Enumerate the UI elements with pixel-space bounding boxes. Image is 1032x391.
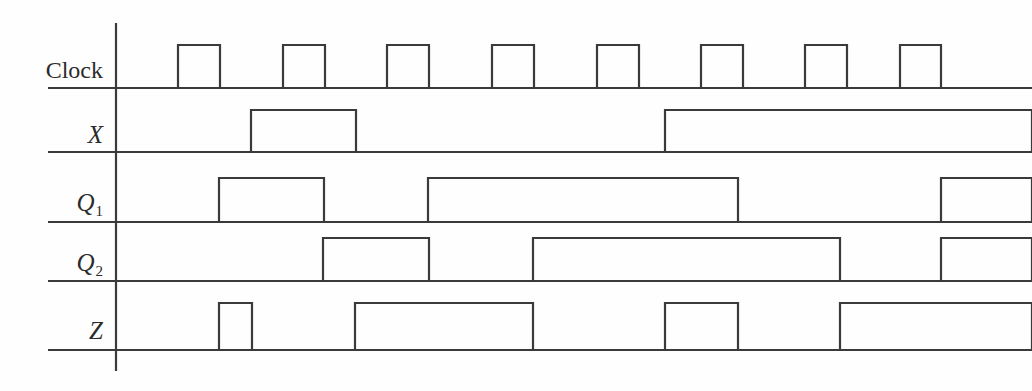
- waveform-q1: [116, 178, 1032, 222]
- signal-label-x: X: [0, 122, 103, 147]
- signal-label-text: Q: [76, 249, 94, 276]
- signal-label-subscript: 1: [95, 203, 104, 219]
- signal-label-text: Z: [89, 317, 103, 344]
- waveform-canvas: [0, 0, 1032, 391]
- signal-label-q1: Q1: [0, 190, 103, 219]
- signal-label-clock: Clock: [0, 58, 103, 82]
- waveform-q2: [116, 238, 1032, 281]
- signal-label-z: Z: [0, 318, 103, 343]
- waveform-clock: [116, 45, 1032, 88]
- signal-label-text: Q: [76, 189, 94, 216]
- timing-diagram: ClockXQ1Q2Z: [0, 0, 1032, 391]
- waveform-z: [116, 303, 1032, 350]
- signal-label-subscript: 2: [95, 263, 104, 279]
- signal-label-q2: Q2: [0, 250, 103, 279]
- waveform-x: [116, 110, 1032, 152]
- signal-label-text: X: [88, 121, 103, 148]
- signal-label-text: Clock: [46, 57, 103, 83]
